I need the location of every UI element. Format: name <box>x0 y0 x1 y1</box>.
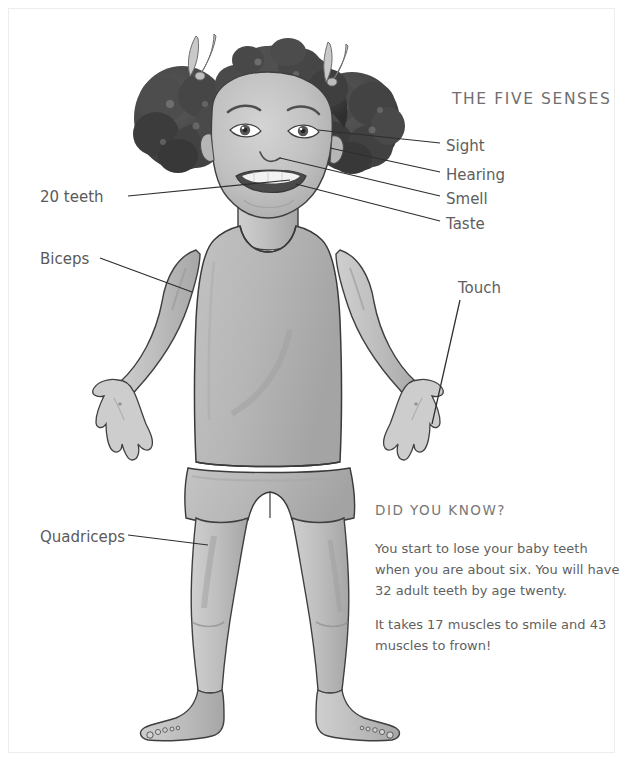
sense-label-smell: Smell <box>446 190 488 208</box>
sense-label-sight: Sight <box>446 137 485 155</box>
leader-line-teeth <box>128 180 290 196</box>
did-you-know-heading: DID YOU KNOW? <box>375 502 506 518</box>
leader-line-hearing <box>330 148 440 172</box>
body-part-label-quadriceps: Quadriceps <box>40 528 125 546</box>
leader-line-biceps <box>100 258 192 292</box>
sense-label-touch: Touch <box>458 279 501 297</box>
leader-line-smell <box>280 158 440 196</box>
leader-line-touch <box>432 300 460 424</box>
leader-line-sight <box>318 130 440 143</box>
leader-line-taste <box>296 184 440 221</box>
body-part-label-biceps: Biceps <box>40 250 89 268</box>
did-you-know-paragraph-1: You start to lose your baby teeth when y… <box>375 538 623 601</box>
did-you-know-paragraph-2: It takes 17 muscles to smile and 43 musc… <box>375 614 623 656</box>
five-senses-poster: THE FIVE SENSES Sight Hearing Smell Tast… <box>0 0 625 763</box>
body-part-label-teeth: 20 teeth <box>40 188 104 206</box>
senses-heading: THE FIVE SENSES <box>452 90 611 108</box>
sense-label-hearing: Hearing <box>446 166 505 184</box>
sense-label-taste: Taste <box>446 215 485 233</box>
leader-line-quadriceps <box>128 535 208 545</box>
